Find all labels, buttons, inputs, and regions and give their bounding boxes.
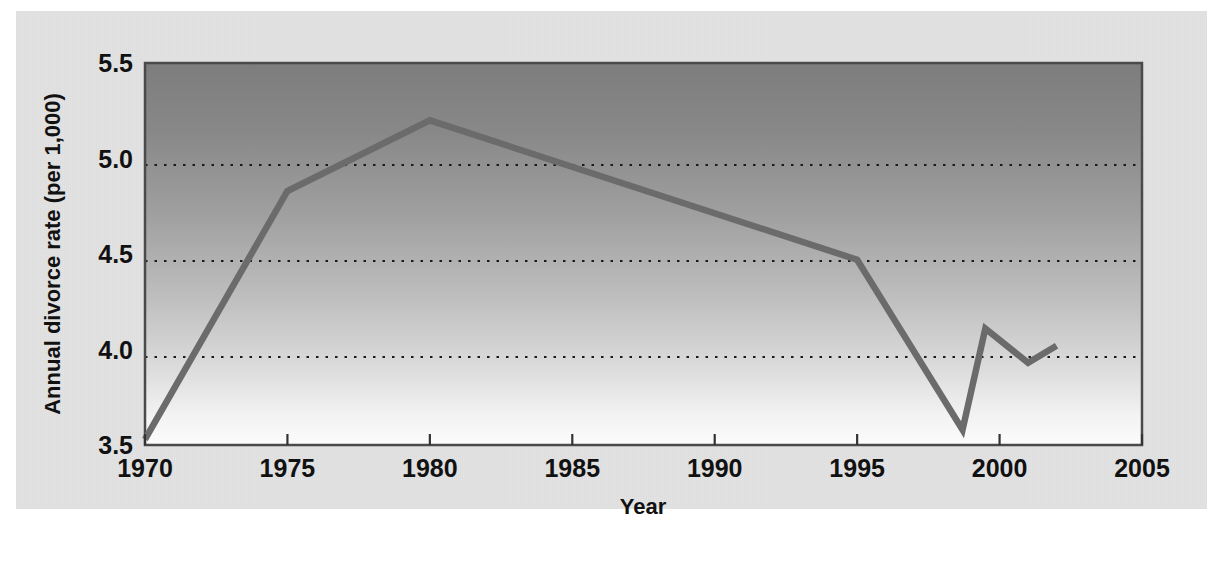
y-axis-title: Annual divorce rate (per 1,000): [40, 93, 65, 415]
x-tick-label-1995: 1995: [829, 454, 885, 482]
x-tick-label-2000: 2000: [972, 454, 1028, 482]
x-axis-title: Year: [620, 494, 667, 519]
chart-canvas: 19701975198019851990199520002005 3.54.04…: [0, 0, 1223, 579]
y-axis-tick-labels: 3.54.04.55.05.5: [98, 49, 133, 459]
plot-area-background: [145, 63, 1142, 445]
y-tick-label-5.5: 5.5: [98, 49, 133, 77]
y-tick-label-4.0: 4.0: [98, 336, 133, 364]
figure-root: 19701975198019851990199520002005 3.54.04…: [0, 0, 1223, 579]
x-tick-label-1975: 1975: [260, 454, 316, 482]
x-tick-label-1990: 1990: [687, 454, 743, 482]
y-tick-label-5.0: 5.0: [98, 145, 133, 173]
x-tick-label-2005: 2005: [1114, 454, 1170, 482]
x-tick-label-1985: 1985: [544, 454, 600, 482]
y-tick-label-3.5: 3.5: [98, 431, 133, 459]
x-axis-tick-labels: 19701975198019851990199520002005: [117, 454, 1170, 482]
y-tick-label-4.5: 4.5: [98, 240, 133, 268]
x-tick-label-1980: 1980: [402, 454, 458, 482]
